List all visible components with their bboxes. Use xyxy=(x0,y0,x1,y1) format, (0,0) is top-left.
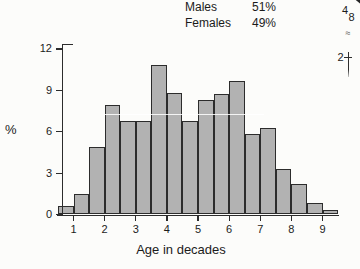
x-tick xyxy=(229,216,230,221)
histogram-bar xyxy=(105,105,121,214)
x-tick xyxy=(260,216,261,221)
page-corner-mark xyxy=(355,0,360,4)
legend-value-males: 51% xyxy=(252,0,292,16)
histogram-bar xyxy=(229,81,245,215)
legend-label-females: Females xyxy=(185,16,252,32)
x-tick xyxy=(104,216,105,221)
histogram-bar xyxy=(198,100,214,215)
legend-label-males: Males xyxy=(185,0,252,16)
histogram-bar xyxy=(260,128,276,215)
edge-fragment-axis-line xyxy=(348,52,350,77)
histogram-bar xyxy=(136,121,152,215)
x-axis-right-end-tick xyxy=(338,216,339,220)
x-tick-label: 4 xyxy=(159,223,175,235)
x-tick xyxy=(166,216,167,221)
x-tick xyxy=(197,216,198,221)
y-axis-top-hook xyxy=(62,44,73,45)
x-tick-label: 7 xyxy=(252,223,268,235)
y-tick-label: 9 xyxy=(34,84,52,96)
y-tick-label: 12 xyxy=(34,42,52,54)
x-tick-label: 1 xyxy=(66,223,82,235)
y-tick-label: 0 xyxy=(34,208,52,220)
histogram-bar xyxy=(167,93,183,214)
edge-fragment-text: 4 xyxy=(342,4,348,16)
histogram-bar xyxy=(151,65,167,214)
x-tick xyxy=(322,216,323,221)
y-tick xyxy=(56,48,62,49)
edge-fragment-squiggle: ≈ xyxy=(346,28,351,38)
histogram-bar xyxy=(276,169,292,215)
histogram-bar xyxy=(89,147,105,215)
legend-value-females: 49% xyxy=(252,16,292,32)
x-tick-label: 3 xyxy=(128,223,144,235)
x-tick-label: 8 xyxy=(283,223,299,235)
x-axis-label: Age in decades xyxy=(131,242,231,257)
histogram-bar xyxy=(120,121,136,215)
x-axis-left-end-tick xyxy=(57,216,58,220)
x-tick-label: 9 xyxy=(315,223,331,235)
histogram-bar xyxy=(307,203,323,214)
x-tick-label: 6 xyxy=(221,223,237,235)
histogram-bar xyxy=(182,121,198,215)
x-tick-label: 2 xyxy=(97,223,113,235)
y-tick xyxy=(56,131,62,132)
legend: Males 51% Females 49% xyxy=(185,0,292,31)
histogram-bar xyxy=(291,184,307,214)
legend-row-females: Females 49% xyxy=(185,16,292,32)
x-tick xyxy=(73,216,74,221)
x-tick-label: 5 xyxy=(190,223,206,235)
histogram-bar xyxy=(245,134,261,214)
histogram-bar xyxy=(74,194,90,215)
legend-row-males: Males 51% xyxy=(185,0,292,16)
histogram-bar xyxy=(214,94,230,214)
y-tick xyxy=(56,90,62,91)
edge-fragment-text: 8 xyxy=(349,11,355,23)
x-tick xyxy=(135,216,136,221)
y-tick xyxy=(56,173,62,174)
y-axis-label: % xyxy=(5,122,17,137)
y-tick xyxy=(56,214,62,215)
y-tick-label: 3 xyxy=(34,167,52,179)
y-axis xyxy=(62,44,64,216)
y-tick-label: 6 xyxy=(34,125,52,137)
scanned-histogram-figure: Males 51% Females 49% 036912123456789 % … xyxy=(0,0,360,269)
scan-artifact-line xyxy=(104,114,264,115)
x-tick xyxy=(291,216,292,221)
